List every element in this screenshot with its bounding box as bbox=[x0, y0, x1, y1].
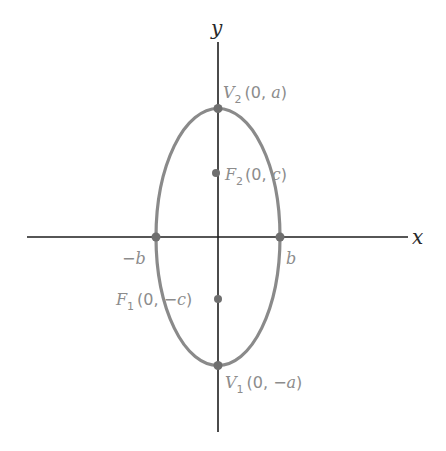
vertex-v2-label: V2(0, a) bbox=[223, 83, 287, 106]
focus-f2-point bbox=[212, 169, 220, 177]
focus-f1-point bbox=[214, 295, 222, 303]
minor-vertex-pos-b-point bbox=[276, 233, 285, 242]
neg-b-label: −b bbox=[122, 249, 146, 268]
x-axis-label: x bbox=[412, 225, 423, 249]
focus-f1-label: F1(0, −c) bbox=[115, 290, 192, 313]
vertex-v1-label: V1(0, −a) bbox=[225, 373, 302, 396]
vertex-v2-point bbox=[214, 104, 223, 113]
pos-b-label: b bbox=[286, 249, 296, 268]
y-axis-label: y bbox=[210, 16, 223, 40]
minor-vertex-neg-b-point bbox=[152, 233, 161, 242]
ellipse-diagram: x y V2(0, a) F2(0, c) −b b F1(0, −c) V1(… bbox=[0, 0, 446, 451]
vertex-v1-point bbox=[214, 361, 223, 370]
focus-f2-label: F2(0, c) bbox=[224, 165, 287, 188]
